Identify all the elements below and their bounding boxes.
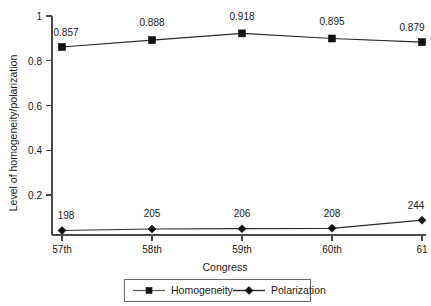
data-point-label: 0.918 bbox=[229, 11, 254, 22]
x-tick-label: 58th bbox=[142, 244, 161, 255]
chart-legend: Homogeneity Polarization bbox=[125, 280, 327, 302]
data-point-marker bbox=[239, 30, 246, 37]
y-tick-label: 0.4 bbox=[28, 145, 42, 156]
data-point-label: 0.857 bbox=[53, 27, 78, 38]
data-point-label: 208 bbox=[324, 208, 341, 219]
y-axis-title: Level of homogeneity/polarization bbox=[7, 55, 19, 212]
data-point-marker bbox=[238, 225, 246, 233]
data-point-marker bbox=[59, 44, 66, 51]
data-point-marker bbox=[419, 39, 426, 46]
data-point-marker bbox=[148, 225, 156, 233]
data-point-label: 206 bbox=[234, 208, 251, 219]
y-tick-label: 0.6 bbox=[28, 101, 42, 112]
line-chart: Level of homogeneity/polarization 1 0.8 … bbox=[0, 0, 431, 306]
data-point-label: 244 bbox=[408, 200, 425, 211]
data-point-label: 0.879 bbox=[399, 22, 424, 33]
chart-figure: Level of homogeneity/polarization 1 0.8 … bbox=[0, 0, 431, 306]
data-point-label: 205 bbox=[144, 208, 161, 219]
x-tick-label: 57th bbox=[52, 244, 71, 255]
data-point-label: 0.895 bbox=[319, 16, 344, 27]
legend-label-polarization: Polarization bbox=[271, 284, 326, 296]
data-point-label: 198 bbox=[58, 210, 75, 221]
series-polarization: 198 205 206 208 244 bbox=[58, 200, 426, 235]
x-axis-ticks: 57th 58th 59th 60th 61 bbox=[52, 235, 428, 255]
legend-marker-square bbox=[146, 288, 152, 294]
series-homogeneity: 0.857 0.888 0.918 0.895 0.879 bbox=[53, 11, 425, 51]
x-tick-label: 59th bbox=[232, 244, 251, 255]
data-point-marker bbox=[328, 224, 336, 232]
data-point-marker bbox=[149, 37, 156, 44]
x-tick-label: 61 bbox=[416, 244, 428, 255]
data-point-marker bbox=[58, 227, 66, 235]
y-tick-label: 1 bbox=[36, 11, 42, 22]
x-tick-label: 60th bbox=[322, 244, 341, 255]
data-point-label: 0.888 bbox=[139, 17, 164, 28]
y-tick-label: 0.2 bbox=[28, 190, 42, 201]
legend-label-homogeneity: Homogeneity bbox=[171, 284, 234, 296]
data-point-marker bbox=[329, 35, 336, 42]
x-axis-title: Congress bbox=[203, 261, 248, 273]
data-point-marker bbox=[418, 216, 426, 224]
y-axis-ticks: 1 0.8 0.6 0.4 0.2 bbox=[28, 11, 52, 201]
y-tick-label: 0.8 bbox=[28, 56, 42, 67]
